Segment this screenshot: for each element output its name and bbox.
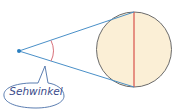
viewing-angle-label: Sehwinkel bbox=[7, 85, 65, 97]
eye-point bbox=[17, 49, 21, 53]
viewing-angle-arc bbox=[51, 41, 54, 62]
